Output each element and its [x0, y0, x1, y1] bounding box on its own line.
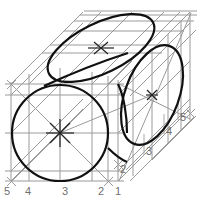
bottom-tick-label-3: 3: [62, 186, 68, 197]
right-tick-label-3: 3: [146, 146, 152, 157]
top-face-grid: [42, 11, 197, 53]
front-circle-center-mark: [46, 119, 74, 147]
technical-drawing-figure: .cl { stroke: #9a9a9a; stroke-width: 1; …: [0, 0, 197, 203]
right-tick-label-4: 4: [166, 126, 172, 137]
bottom-tick-label-5: 5: [4, 186, 10, 197]
bottom-tick-label-4: 4: [25, 186, 31, 197]
right-tick-label-5: 5: [180, 112, 186, 123]
right-tick-label-2: 2: [120, 164, 126, 175]
drawing-canvas: .cl { stroke: #9a9a9a; stroke-width: 1; …: [0, 0, 197, 203]
bottom-tick-label-2: 2: [98, 186, 104, 197]
bottom-tick-label-1: 1: [115, 186, 121, 197]
